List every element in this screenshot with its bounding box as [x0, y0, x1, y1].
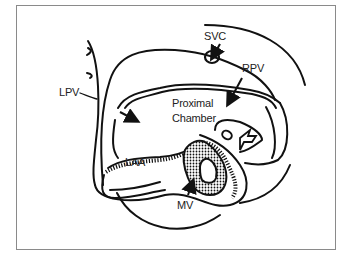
chamber-inner-left	[113, 120, 118, 158]
lpv-small-arc-1	[87, 48, 91, 55]
right-wall-inner	[266, 107, 275, 158]
rpv-ostium-oval	[221, 129, 234, 141]
label-lpv: LPV	[59, 87, 79, 98]
lpv-small-arc-2	[87, 73, 92, 78]
label-proximal-chamber-line1: Proximal	[172, 98, 213, 109]
label-laa: LAA	[125, 157, 145, 168]
laa-bottom-line	[110, 182, 160, 190]
label-rpv: RPV	[242, 63, 264, 74]
label-proximal-chamber-line2: Chamber	[172, 113, 216, 124]
right-wall-outer	[245, 103, 287, 164]
laa-outer	[102, 175, 165, 198]
label-svc: SVC	[204, 31, 226, 42]
lpv-outer-line	[88, 41, 98, 185]
mv-orifice	[200, 159, 217, 183]
heart-schematic-diagram	[0, 0, 350, 263]
label-mv: MV	[177, 200, 193, 211]
lpv-leader	[80, 93, 97, 99]
chamber-arrow	[120, 112, 137, 121]
outer-arc-bottom	[117, 193, 220, 229]
